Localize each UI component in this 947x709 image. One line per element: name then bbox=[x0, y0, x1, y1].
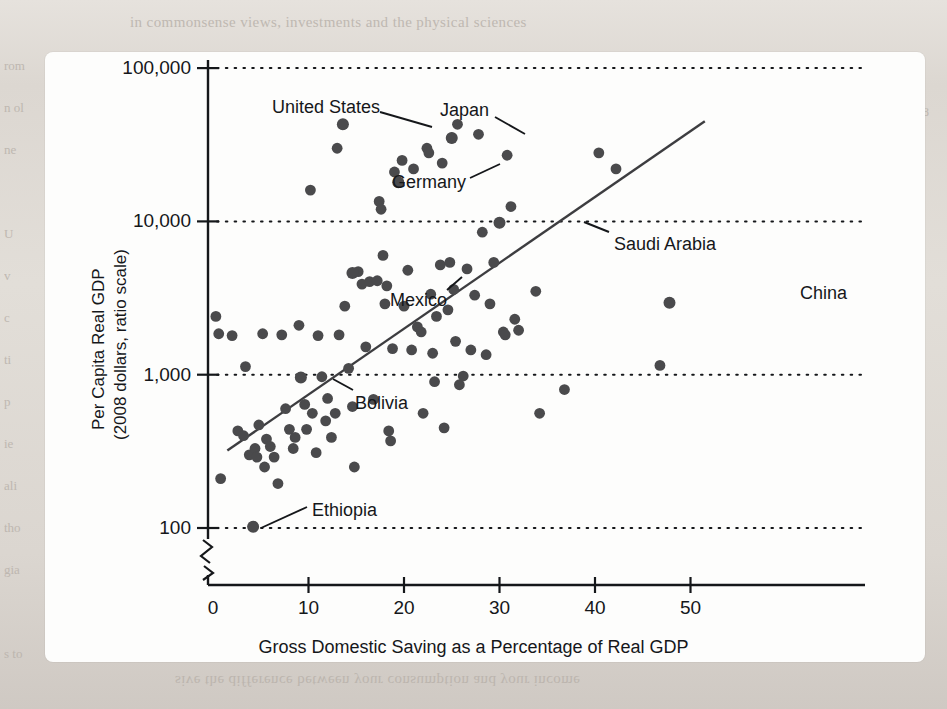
y-tick-label: 1,000 bbox=[143, 364, 191, 386]
x-tick-label: 50 bbox=[661, 597, 721, 619]
figure-card bbox=[45, 52, 925, 662]
x-tick-label: 0 bbox=[183, 597, 243, 619]
annotation-label: United States bbox=[272, 97, 380, 118]
ghost-line: ie bbox=[4, 436, 13, 452]
ghost-line: gia bbox=[4, 562, 20, 578]
ghost-line: ali bbox=[4, 478, 17, 494]
y-tick-label: 10,000 bbox=[133, 210, 191, 232]
annotation-label: Saudi Arabia bbox=[614, 234, 716, 255]
ghost-line: ne bbox=[4, 142, 16, 158]
annotation-label: Japan bbox=[440, 100, 489, 121]
ghost-line: U bbox=[4, 226, 13, 242]
ghost-text-top: in commonsense views, investments and th… bbox=[130, 14, 527, 31]
ghost-line: c bbox=[4, 310, 10, 326]
x-tick-label: 10 bbox=[279, 597, 339, 619]
x-tick-label: 30 bbox=[470, 597, 530, 619]
ghost-line: n ol bbox=[4, 100, 24, 116]
annotation-label: China bbox=[800, 283, 847, 304]
annotation-label: Mexico bbox=[390, 290, 447, 311]
y-tick-label: 100,000 bbox=[122, 57, 191, 79]
ghost-line: tho bbox=[4, 520, 21, 536]
ghost-text-bottom: sive the difference between your consump… bbox=[175, 672, 580, 689]
x-axis-title: Gross Domestic Saving as a Percentage of… bbox=[0, 637, 947, 658]
y-tick-label: 100 bbox=[159, 517, 191, 539]
annotation-label: Bolivia bbox=[355, 393, 408, 414]
annotation-label: Ethiopia bbox=[312, 500, 377, 521]
y-axis-title-line2: (2008 dollars, ratio scale) bbox=[110, 249, 131, 440]
ghost-line: ti bbox=[4, 352, 11, 368]
y-axis-title-line1: Per Capita Real GDP bbox=[88, 268, 109, 430]
annotation-label: Germany bbox=[392, 172, 466, 193]
x-tick-label: 40 bbox=[565, 597, 625, 619]
ghost-line: v bbox=[4, 268, 11, 284]
ghost-line: rom bbox=[4, 58, 25, 74]
x-tick-label: 20 bbox=[374, 597, 434, 619]
ghost-line: p bbox=[4, 394, 11, 410]
